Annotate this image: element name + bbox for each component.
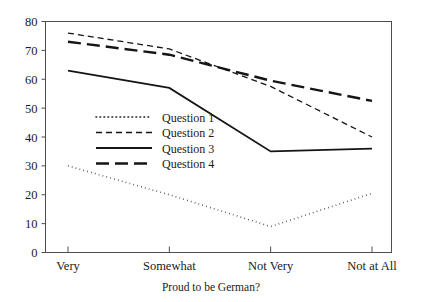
y-tick-label: 70	[25, 44, 38, 58]
x-tick-label: Somewhat	[143, 259, 196, 273]
legend-label: Question 3	[162, 142, 214, 156]
x-axis-title: Proud to be German?	[162, 281, 260, 293]
y-tick-label: 50	[25, 102, 38, 116]
y-tick-label: 0	[31, 246, 37, 260]
x-tick-label: Not Very	[248, 259, 294, 273]
y-tick-label: 40	[25, 131, 38, 145]
x-tick-label: Very	[56, 259, 80, 273]
y-tick-label: 10	[25, 217, 38, 231]
y-tick-label: 20	[25, 188, 38, 202]
x-tick-label: Not at All	[347, 259, 397, 273]
legend-label: Question 2	[162, 126, 214, 140]
y-tick-label: 60	[25, 73, 38, 87]
chart-figure: 01020304050607080 VerySomewhatNot VeryNo…	[0, 0, 422, 302]
y-tick-label: 30	[25, 159, 38, 173]
legend-label: Question 1	[162, 111, 214, 125]
legend-label: Question 4	[162, 157, 214, 171]
line-chart: 01020304050607080 VerySomewhatNot VeryNo…	[0, 0, 422, 302]
y-tick-label: 80	[25, 15, 38, 29]
